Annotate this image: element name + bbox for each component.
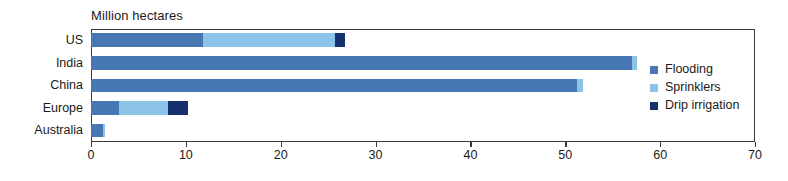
x-axis-tick	[660, 142, 661, 147]
x-axis-tick	[470, 142, 471, 147]
x-axis: 010203040506070	[91, 142, 755, 172]
y-axis-label-india: India	[56, 52, 83, 75]
y-axis-label-us: US	[66, 29, 83, 52]
legend-label: Drip irrigation	[665, 99, 739, 112]
x-axis-tick-label: 40	[463, 148, 477, 162]
x-axis-tick	[91, 142, 92, 147]
x-axis-tick	[755, 142, 756, 147]
y-axis-label-australia: Australia	[34, 119, 83, 142]
legend-item-drip-irrigation: Drip irrigation	[650, 97, 770, 114]
legend-swatch-icon	[650, 84, 658, 92]
x-axis-tick	[281, 142, 282, 147]
x-axis-tick-label: 30	[369, 148, 383, 162]
legend-label: Sprinklers	[665, 81, 721, 94]
chart-legend: FloodingSprinklersDrip irrigation	[650, 61, 770, 115]
x-axis-tick-label: 0	[88, 148, 95, 162]
legend-item-flooding: Flooding	[650, 61, 770, 78]
legend-label: Flooding	[665, 63, 713, 76]
legend-swatch-icon	[650, 66, 658, 74]
stacked-bar-chart: Million hectares USIndiaChinaEuropeAustr…	[0, 0, 788, 181]
x-axis-tick	[186, 142, 187, 147]
x-axis-tick-label: 70	[748, 148, 762, 162]
x-axis-tick	[376, 142, 377, 147]
y-axis-label-europe: Europe	[43, 97, 83, 120]
y-axis-label-china: China	[50, 74, 83, 97]
x-axis-tick-label: 20	[274, 148, 288, 162]
x-axis-tick-label: 10	[179, 148, 193, 162]
x-axis-tick-label: 60	[653, 148, 667, 162]
legend-swatch-icon	[650, 102, 658, 110]
chart-title: Million hectares	[91, 8, 183, 23]
legend-item-sprinklers: Sprinklers	[650, 79, 770, 96]
x-axis-tick-label: 50	[558, 148, 572, 162]
x-axis-tick	[565, 142, 566, 147]
y-axis-category-labels: USIndiaChinaEuropeAustralia	[0, 29, 87, 142]
